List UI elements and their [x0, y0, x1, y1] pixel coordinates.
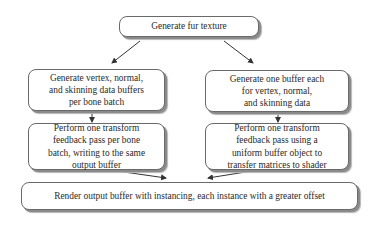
node-label: Perform one transform feedback pass per …	[48, 122, 145, 171]
node-transform-feedback-per-batch: Perform one transform feedback pass per …	[28, 123, 165, 170]
node-label: Perform one transform feedback pass usin…	[227, 122, 326, 171]
node-label: Render output buffer with instancing, ea…	[54, 190, 325, 202]
node-label: Generate one buffer each for vertex, nor…	[230, 73, 324, 110]
arrow-top-to-right	[224, 41, 253, 63]
node-generate-per-batch-buffers: Generate vertex, normal, and skinning da…	[28, 69, 165, 111]
node-label: Generate fur texture	[151, 20, 226, 32]
arrow-right2-to-bottom	[208, 171, 252, 178]
node-generate-fur-texture: Generate fur texture	[119, 16, 259, 37]
node-transform-feedback-ubo: Perform one transform feedback pass usin…	[205, 123, 349, 170]
arrow-left2-to-bottom	[117, 171, 166, 178]
node-generate-single-buffers: Generate one buffer each for vertex, nor…	[205, 70, 349, 112]
node-label: Generate vertex, normal, and skinning da…	[49, 72, 144, 109]
arrow-top-to-left	[112, 41, 140, 63]
node-render-instancing: Render output buffer with instancing, ea…	[21, 182, 358, 210]
